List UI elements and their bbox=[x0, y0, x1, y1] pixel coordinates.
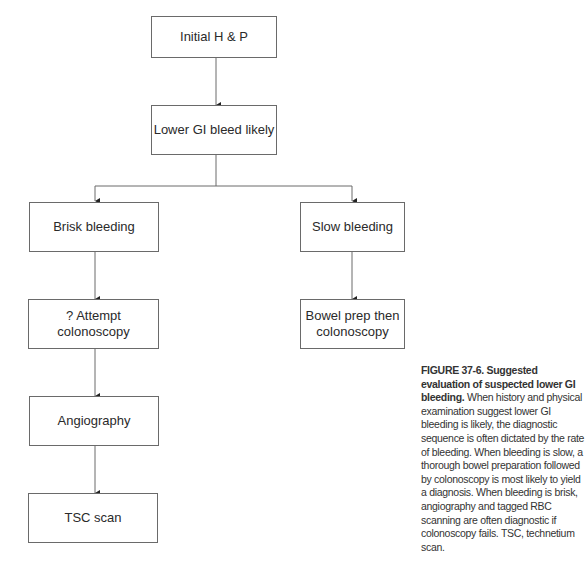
caption-label: FIGURE 37-6. bbox=[421, 364, 484, 376]
node-lower-gi-bleed-likely: Lower GI bleed likely bbox=[151, 105, 277, 155]
node-label: TSC scan bbox=[64, 510, 121, 526]
node-bowel-prep-then-colonoscopy: Bowel prep then colonoscopy bbox=[300, 299, 405, 349]
node-brisk-bleeding: Brisk bleeding bbox=[29, 202, 159, 252]
node-angiography: Angiography bbox=[29, 396, 159, 446]
node-label: ? Attempt colonoscopy bbox=[29, 308, 158, 340]
figure-caption: FIGURE 37-6. Suggested evaluation of sus… bbox=[421, 364, 585, 554]
node-label-line-2: colonoscopy bbox=[316, 324, 388, 340]
node-label: Slow bleeding bbox=[312, 219, 393, 235]
node-label: Brisk bleeding bbox=[53, 219, 135, 235]
node-initial-h-and-p: Initial H & P bbox=[151, 16, 277, 58]
node-label-line-1: Bowel prep then bbox=[306, 308, 400, 324]
node-label: Initial H & P bbox=[180, 29, 248, 45]
node-label: Lower GI bleed likely bbox=[154, 122, 275, 138]
caption-body: When history and physical examination su… bbox=[421, 391, 584, 553]
node-label: Angiography bbox=[58, 413, 131, 429]
node-slow-bleeding: Slow bleeding bbox=[300, 202, 405, 252]
node-attempt-colonoscopy: ? Attempt colonoscopy bbox=[28, 299, 159, 349]
node-tsc-scan: TSC scan bbox=[28, 493, 158, 543]
